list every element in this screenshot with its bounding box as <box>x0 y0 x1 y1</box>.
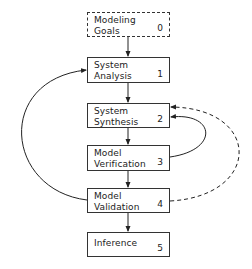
node-system-synthesis: System Synthesis 2 <box>87 103 170 128</box>
node-modeling-goals: Modeling Goals 0 <box>87 12 170 37</box>
arrow-4-to-2-feedback-dashed <box>170 107 239 201</box>
node-label: Inference <box>94 238 137 249</box>
arrow-3-to-2-feedback <box>170 117 206 157</box>
flow-diagram: Modeling Goals 0 System Analysis 1 Syste… <box>0 0 252 269</box>
node-label: Modeling Goals <box>94 15 136 37</box>
node-model-validation: Model Validation 4 <box>87 188 170 213</box>
node-number: 0 <box>157 23 163 34</box>
node-number: 1 <box>157 69 163 80</box>
node-number: 2 <box>157 114 163 125</box>
node-model-verification: Model Verification 3 <box>87 145 170 171</box>
arrow-4-to-1-feedback <box>22 70 87 200</box>
node-number: 5 <box>157 243 163 254</box>
node-number: 4 <box>157 199 163 210</box>
node-label: System Analysis <box>94 60 132 82</box>
node-label: Model Verification <box>94 148 146 170</box>
node-system-analysis: System Analysis 1 <box>87 57 170 83</box>
node-number: 3 <box>157 157 163 168</box>
node-inference: Inference 5 <box>87 232 170 257</box>
node-label: Model Validation <box>94 191 139 213</box>
node-label: System Synthesis <box>94 106 138 128</box>
connectors <box>0 0 252 269</box>
